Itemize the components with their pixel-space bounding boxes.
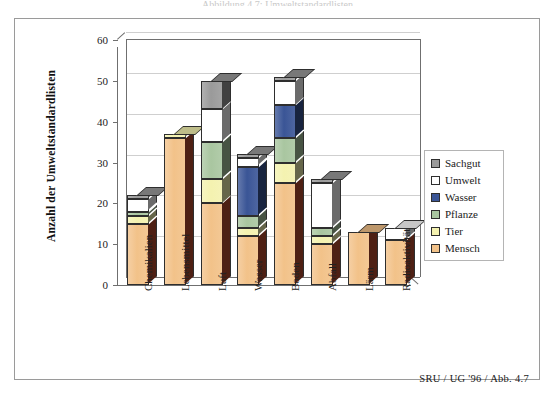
legend-swatch-icon (431, 159, 440, 168)
legend-swatch-icon (431, 244, 440, 253)
bar-segment-abfall-umwelt (311, 183, 333, 228)
x-label-abfall: Abfall (326, 263, 338, 291)
bar-top-cap-boden (283, 69, 315, 78)
legend-item-tier[interactable]: Tier (431, 225, 498, 237)
x-label-radioaktivität: Radioaktivität (400, 229, 412, 291)
legend-item-sachgut[interactable]: Sachgut (431, 157, 498, 169)
bar-segment-chemikalien-umwelt (127, 199, 149, 211)
bar-segment-chemikalien-pflanze (127, 212, 149, 216)
bar-segment-side (332, 176, 341, 227)
legend-item-pflanze[interactable]: Pflanze (431, 208, 498, 220)
legend-swatch-icon (431, 176, 440, 185)
y-axis-front (117, 47, 118, 285)
bar-top-cap-abfall (320, 171, 352, 180)
bar-segment-wasser-pflanze (237, 216, 259, 228)
y-axis-title: Anzahl der Umweltstandardlisten (45, 61, 57, 251)
legend-swatch-icon (431, 210, 440, 219)
x-label-lebensmittel: Lebensmittel (179, 234, 191, 291)
source-note: SRU / UG '96 / Abb. 4.7 (419, 373, 529, 384)
chart-legend: SachgutUmweltWasserPflanzeTierMensch (424, 150, 504, 261)
bar-segment-wasser-wasser (237, 167, 259, 216)
bar-segment-chemikalien-tier (127, 216, 149, 224)
bar-top-cap-luft (210, 73, 242, 82)
legend-item-wasser[interactable]: Wasser (431, 191, 498, 203)
figure-page: Abbildung 4.7: Umweltstandardlisten 0102… (0, 0, 555, 400)
bar-top-cap-radioaktivität (394, 220, 426, 229)
bar-segment-side (222, 135, 231, 178)
bar-segment-wasser-umwelt (237, 158, 259, 166)
bar-segment-wasser-tier (237, 228, 259, 236)
bar-segment-luft-sachgut (201, 81, 223, 110)
bar-segment-luft-pflanze (201, 142, 223, 179)
legend-label: Umwelt (445, 175, 480, 186)
bar-segment-boden-wasser (274, 105, 296, 138)
legend-item-umwelt[interactable]: Umwelt (431, 174, 498, 186)
bar-segment-boden-umwelt (274, 81, 296, 106)
x-label-boden: Boden (289, 262, 301, 291)
bar-segment-boden-pflanze (274, 138, 296, 163)
legend-label: Sachgut (445, 158, 480, 169)
legend-swatch-icon (431, 227, 440, 236)
legend-label: Tier (445, 226, 463, 237)
x-label-chemikalien: Chemikalien (142, 235, 154, 291)
x-label-lärm: Lärm (363, 267, 375, 291)
bar-segment-boden-tier (274, 163, 296, 183)
bar-segment-abfall-pflanze (311, 228, 333, 236)
legend-item-mensch[interactable]: Mensch (431, 242, 498, 254)
bar-segment-side (222, 196, 231, 284)
legend-swatch-icon (431, 193, 440, 202)
legend-label: Mensch (445, 243, 480, 254)
legend-label: Pflanze (445, 209, 478, 220)
bar-segment-luft-umwelt (201, 109, 223, 142)
x-label-wasser: Wasser (252, 260, 264, 292)
bar-segment-side (258, 160, 267, 215)
x-label-luft: Luft (216, 272, 228, 291)
bar-segment-abfall-tier (311, 236, 333, 244)
legend-label: Wasser (445, 192, 477, 203)
bar-segment-luft-tier (201, 179, 223, 204)
